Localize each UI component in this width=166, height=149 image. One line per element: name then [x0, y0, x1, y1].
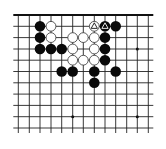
black-stone[interactable] [100, 32, 111, 43]
white-stone-marked[interactable] [89, 21, 99, 31]
black-stone[interactable] [35, 32, 46, 43]
black-stone[interactable] [110, 21, 121, 32]
black-stone-icon [56, 44, 67, 55]
black-stone-icon [110, 66, 121, 77]
black-stone-icon [35, 44, 46, 55]
white-stone[interactable] [78, 33, 88, 43]
white-stone-icon [46, 33, 56, 43]
black-stone[interactable] [35, 44, 46, 55]
white-stone-icon [78, 55, 88, 65]
white-stone-icon [89, 44, 99, 54]
black-stone-icon [89, 66, 100, 77]
black-stone[interactable] [67, 66, 78, 77]
black-stone-icon [100, 32, 111, 43]
black-stone-icon [56, 66, 67, 77]
black-stone-marked[interactable] [100, 21, 111, 32]
white-stone[interactable] [46, 21, 56, 31]
white-stone-icon [78, 33, 88, 43]
black-stone-icon [89, 78, 100, 89]
white-stone[interactable] [89, 55, 99, 65]
white-stone[interactable] [78, 55, 88, 65]
star-point [136, 115, 139, 118]
white-stone-icon [89, 55, 99, 65]
black-stone[interactable] [35, 21, 46, 32]
black-stone[interactable] [56, 44, 67, 55]
black-stone-icon [100, 55, 111, 66]
star-point [71, 115, 74, 118]
black-stone-icon [100, 44, 111, 55]
black-stone-icon [67, 66, 78, 77]
star-point [136, 48, 139, 51]
white-stone[interactable] [46, 33, 56, 43]
white-stone[interactable] [89, 44, 99, 54]
white-stone-icon [68, 33, 78, 43]
white-stone[interactable] [89, 33, 99, 43]
black-stone[interactable] [110, 66, 121, 77]
black-stone[interactable] [89, 66, 100, 77]
white-stone[interactable] [68, 33, 78, 43]
black-stone-icon [110, 21, 121, 32]
black-stone-icon [46, 44, 57, 55]
black-stone[interactable] [89, 78, 100, 89]
black-stone[interactable] [100, 55, 111, 66]
black-stone-icon [35, 21, 46, 32]
black-stone[interactable] [100, 44, 111, 55]
black-stone[interactable] [56, 66, 67, 77]
black-stone[interactable] [46, 44, 57, 55]
white-stone[interactable] [68, 44, 78, 54]
stones-layer [35, 21, 121, 88]
white-stone-icon [68, 55, 78, 65]
white-stone-icon [46, 21, 56, 31]
white-stone-icon [89, 33, 99, 43]
white-stone[interactable] [68, 55, 78, 65]
black-stone-icon [35, 32, 46, 43]
go-board[interactable] [0, 0, 166, 149]
white-stone-icon [68, 44, 78, 54]
